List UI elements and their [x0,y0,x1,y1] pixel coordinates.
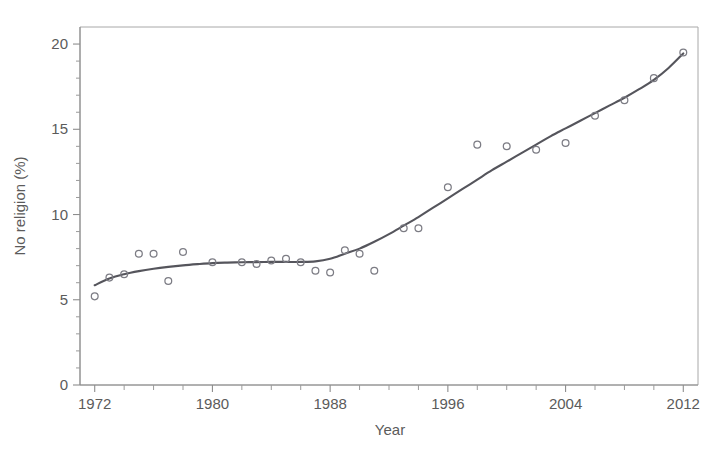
trend-line-series [95,53,684,285]
data-point [165,278,172,285]
x-axis-title: Year [375,421,405,438]
x-axis-tick-labels: 197219801988199620042012 [78,395,700,412]
y-tick-label: 15 [51,120,68,137]
data-point-series [91,49,686,300]
x-axis-ticks [95,385,684,392]
y-tick-label: 5 [60,291,68,308]
data-point [503,143,510,150]
trend-line [95,53,684,285]
x-tick-label: 1996 [431,395,464,412]
data-point [327,269,334,276]
data-point [312,267,319,274]
plot-box [80,27,698,385]
x-tick-label: 2012 [667,395,700,412]
x-tick-label: 1972 [78,395,111,412]
plot-frame [80,27,698,385]
y-tick-label: 20 [51,35,68,52]
y-axis-title: No religion (%) [11,156,28,255]
data-point [444,184,451,191]
y-tick-label: 0 [60,376,68,393]
data-point [562,140,569,147]
data-point [180,249,187,256]
data-point [371,267,378,274]
data-point [533,146,540,153]
y-axis-ticks [73,44,80,385]
x-tick-label: 1980 [196,395,229,412]
scatter-chart: 197219801988199620042012 05101520 Year N… [0,0,723,451]
data-point [415,225,422,232]
x-tick-label: 1988 [313,395,346,412]
data-point [356,250,363,257]
data-point [135,250,142,257]
y-tick-label: 10 [51,206,68,223]
data-point [91,293,98,300]
x-tick-label: 2004 [549,395,582,412]
y-axis-tick-labels: 05101520 [51,35,68,393]
figure-container: 197219801988199620042012 05101520 Year N… [0,0,723,451]
data-point [150,250,157,257]
data-point [474,141,481,148]
